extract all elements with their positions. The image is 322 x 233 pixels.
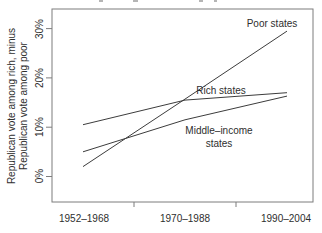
y-tick-label: 10% xyxy=(34,117,45,137)
y-tick-label: 0% xyxy=(34,169,45,183)
y-tick-label: 30% xyxy=(34,19,45,39)
series-label-middle-income-line2: states xyxy=(206,138,233,149)
series-label-rich-states: Rich states xyxy=(196,85,245,96)
y-axis-title-line1: Republican vote among rich, minus xyxy=(6,28,17,184)
y-axis-title-line2: Republican vote among poor xyxy=(18,42,29,170)
series-label-middle-income-line1: Middle–income xyxy=(185,125,252,136)
plot-area xyxy=(0,0,322,233)
y-tick-label: 20% xyxy=(34,68,45,88)
x-tick-label: 1990–2004 xyxy=(261,213,311,224)
x-tick-label: 1970–1988 xyxy=(160,213,210,224)
x-tick-label: 1952–1968 xyxy=(59,213,109,224)
chart: Republican vote among rich, minus Republ… xyxy=(0,0,322,233)
series-label-poor-states: Poor states xyxy=(247,18,298,29)
